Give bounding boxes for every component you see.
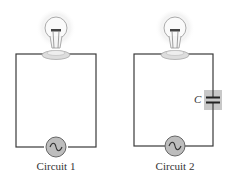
ac-source-icon: [44, 137, 68, 157]
capacitor-label: C: [194, 93, 201, 105]
circuit-2: [134, 10, 222, 156]
circuit-1: [16, 10, 96, 157]
circuit-2-label: Circuit 2: [135, 160, 215, 172]
light-bulb-icon: [36, 10, 76, 60]
capacitor-icon: [204, 90, 222, 110]
light-bulb-icon: [155, 10, 195, 60]
circuit-1-wire: [16, 54, 96, 147]
ac-source-icon: [165, 136, 185, 156]
circuit-1-label: Circuit 1: [16, 160, 96, 172]
